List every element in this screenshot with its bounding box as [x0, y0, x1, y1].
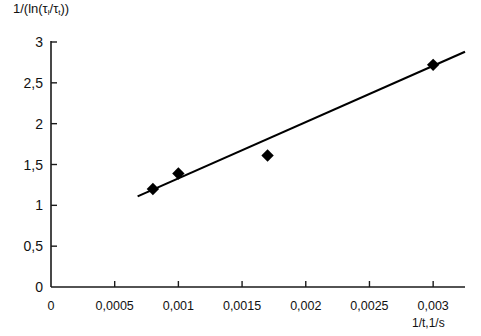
trend-line-path — [138, 52, 465, 197]
y-tick-label: 2 — [1, 116, 43, 132]
y-tick-label: 1,5 — [1, 157, 43, 173]
plot-area — [0, 0, 481, 336]
data-point-marker — [147, 183, 159, 195]
y-tick-label: 1 — [1, 197, 43, 213]
x-tick-label: 0,003 — [418, 299, 449, 313]
data-point-marker — [172, 167, 184, 179]
x-tick-label: 0 — [48, 299, 55, 313]
chart-figure: 1/(ln(τl/τt)) 00,511,522,53 00,00050,001… — [0, 0, 481, 336]
x-tick-label: 0,0015 — [223, 299, 261, 313]
data-point-marker — [261, 149, 273, 161]
axes — [51, 41, 465, 287]
y-tick-label: 3 — [1, 34, 43, 50]
y-tick-label: 0 — [1, 279, 43, 295]
y-tick-label: 2,5 — [1, 75, 43, 91]
x-tick-label: 0,002 — [290, 299, 321, 313]
data-point-marker — [427, 59, 439, 71]
tick-marks — [51, 42, 433, 287]
x-tick-label: 0,0025 — [350, 299, 388, 313]
trend-line — [138, 52, 465, 197]
x-tick-label: 0,0005 — [96, 299, 134, 313]
y-tick-label: 0,5 — [1, 238, 43, 254]
x-axis-label: 1/t,1/s — [412, 316, 445, 330]
x-tick-label: 0,001 — [163, 299, 194, 313]
